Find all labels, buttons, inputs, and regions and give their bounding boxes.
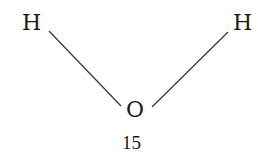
atom-hydrogen-right: H (233, 12, 252, 34)
figure-caption-number: 15 (122, 133, 141, 152)
bond-o-h-right (152, 32, 228, 107)
bond-h-left-o (49, 31, 121, 106)
atom-oxygen: O (126, 99, 144, 121)
atom-hydrogen-left: H (22, 12, 41, 34)
